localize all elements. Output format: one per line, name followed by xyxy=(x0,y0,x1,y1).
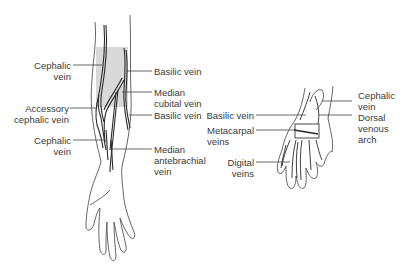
vein-anatomy-illustration xyxy=(0,0,407,265)
label-cephalic-vein-upper: Cephalic vein xyxy=(2,60,71,82)
forearm-drawing xyxy=(86,15,135,261)
label-median-cubital-vein: Median cubital vein xyxy=(154,87,202,109)
label-dorsal-venous-arch: Dorsal venous arch xyxy=(358,112,389,145)
label-metacarpal-veins: Metacarpal veins xyxy=(207,125,254,147)
label-digital-veins: Digital veins xyxy=(196,157,254,179)
label-hand-basilic-vein: Basilic vein xyxy=(196,110,254,121)
label-basilic-vein-upper: Basilic vein xyxy=(154,66,202,77)
label-hand-cephalic-vein: Cephalic vein xyxy=(358,90,395,112)
label-cephalic-vein-lower: Cephalic vein xyxy=(2,135,71,157)
label-accessory-cephalic-vein: Accessory cephalic vein xyxy=(0,103,69,125)
label-basilic-vein-lower: Basilic vein xyxy=(154,110,202,121)
